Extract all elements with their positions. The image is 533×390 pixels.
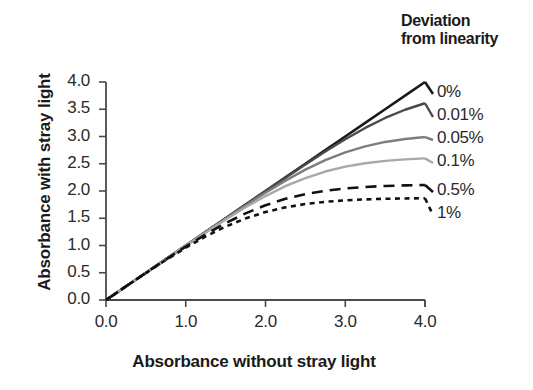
legend-label-3: 0.1% — [437, 151, 474, 171]
legend-items: 0%0.01%0.05%0.1%0.5%1% — [383, 12, 533, 390]
legend-label-4: 0.5% — [437, 180, 474, 200]
legend-label-5: 1% — [437, 203, 461, 223]
legend-label-0: 0% — [437, 82, 461, 102]
legend: Deviation from linearity 0%0.01%0.05%0.1… — [383, 12, 533, 48]
curve-1 — [106, 198, 425, 300]
curve-05 — [106, 185, 425, 300]
curve-01 — [106, 158, 425, 300]
data-curves — [106, 82, 425, 300]
curve-001 — [106, 103, 425, 300]
stray-light-absorbance-chart: Absorbance with stray light Absorbance w… — [0, 0, 533, 390]
legend-label-2: 0.05% — [437, 128, 483, 148]
legend-label-1: 0.01% — [437, 105, 483, 125]
